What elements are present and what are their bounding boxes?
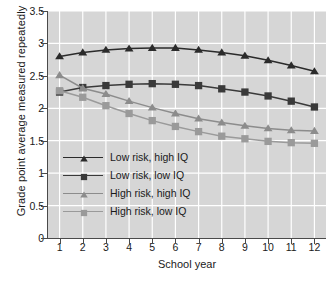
- chart-series: [56, 80, 318, 111]
- y-tick-mark: [41, 76, 48, 77]
- data-point-marker-square: [149, 80, 156, 87]
- data-point-marker-square: [311, 140, 318, 147]
- legend-label: Low risk, low IQ: [110, 169, 184, 181]
- chart-legend: Low risk, high IQLow risk, low IQHigh ri…: [63, 148, 223, 220]
- legend-item: High risk, high IQ: [63, 184, 223, 202]
- y-tick-mark: [41, 11, 48, 12]
- data-point-marker-square: [241, 135, 248, 142]
- x-tick-mark: [83, 238, 84, 244]
- data-point-marker-square: [311, 103, 318, 110]
- data-point-marker-square: [125, 110, 132, 117]
- data-point-marker-square: [56, 87, 63, 94]
- x-tick-mark: [291, 238, 292, 244]
- x-tick-mark: [175, 238, 176, 244]
- legend-item: Low risk, low IQ: [63, 166, 223, 184]
- data-point-marker-square: [195, 128, 202, 135]
- legend-marker-square-icon: [78, 171, 90, 183]
- legend-marker-triangle-icon: [78, 153, 90, 165]
- data-point-marker-triangle: [55, 71, 64, 78]
- legend-item: Low risk, high IQ: [63, 148, 223, 166]
- data-point-marker-square: [218, 85, 225, 92]
- data-point-marker-triangle: [80, 155, 88, 161]
- chart-series: [56, 87, 318, 147]
- chart-figure: Grade point average measured repeatedly …: [0, 0, 335, 281]
- data-point-marker-square: [79, 94, 86, 101]
- legend-label: Low risk, high IQ: [110, 151, 188, 163]
- x-tick-mark: [60, 238, 61, 244]
- data-point-marker-square: [172, 81, 179, 88]
- x-tick-mark: [199, 238, 200, 244]
- x-tick-mark: [129, 238, 130, 244]
- y-tick-mark: [41, 43, 48, 44]
- legend-swatch: [63, 168, 103, 182]
- x-tick-mark: [314, 238, 315, 244]
- y-tick-mark: [41, 173, 48, 174]
- legend-marker-square-icon: [78, 207, 90, 219]
- data-point-marker-square: [81, 174, 87, 180]
- x-tick-mark: [222, 238, 223, 244]
- data-point-marker-square: [102, 102, 109, 109]
- data-point-marker-square: [149, 117, 156, 124]
- data-point-marker-square: [172, 123, 179, 130]
- data-point-marker-square: [288, 97, 295, 104]
- data-point-marker-square: [81, 210, 87, 216]
- y-tick-mark: [41, 108, 48, 109]
- chart-series: [55, 44, 319, 74]
- y-tick-mark: [41, 206, 48, 207]
- y-tick-mark: [41, 238, 48, 239]
- legend-marker-triangle-icon: [78, 189, 90, 201]
- data-point-marker-square: [218, 133, 225, 140]
- x-tick-mark: [268, 238, 269, 244]
- x-axis-line: [47, 238, 326, 239]
- chart-series: [55, 71, 319, 134]
- data-point-marker-square: [195, 82, 202, 89]
- data-point-marker-square: [125, 81, 132, 88]
- data-point-marker-square: [264, 92, 271, 99]
- series-line: [60, 91, 315, 144]
- data-point-marker-square: [288, 139, 295, 146]
- x-axis-label: School year: [48, 258, 326, 270]
- x-tick-mark: [245, 238, 246, 244]
- legend-item: High risk, low IQ: [63, 202, 223, 220]
- legend-swatch: [63, 186, 103, 200]
- data-point-marker-square: [241, 88, 248, 95]
- legend-swatch: [63, 150, 103, 164]
- x-tick-mark: [106, 238, 107, 244]
- data-point-marker-square: [264, 138, 271, 145]
- series-line: [60, 48, 315, 71]
- data-point-marker-square: [102, 82, 109, 89]
- x-tick-mark: [152, 238, 153, 244]
- legend-label: High risk, low IQ: [110, 205, 186, 217]
- y-tick-mark: [41, 141, 48, 142]
- legend-swatch: [63, 204, 103, 218]
- legend-label: High risk, high IQ: [110, 187, 191, 199]
- data-point-marker-triangle: [80, 191, 88, 197]
